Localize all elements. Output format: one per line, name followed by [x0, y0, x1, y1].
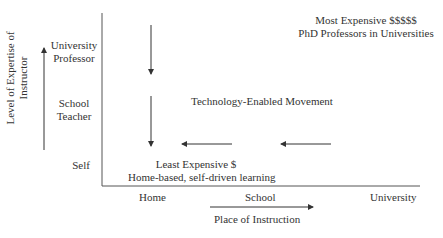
- x-level-home: Home: [139, 191, 166, 204]
- x-axis-title: Place of Instruction: [214, 213, 300, 226]
- least-expensive-label: Least Expensive $ Home-based, self-drive…: [128, 158, 264, 184]
- x-level-university: University: [370, 191, 416, 204]
- x-level-school: School: [245, 191, 276, 204]
- y-level-university-professor: University Professor: [46, 39, 102, 65]
- y-axis-title: Level of Expertise of Instructor: [4, 8, 30, 148]
- y-level-school-teacher: School Teacher: [46, 97, 102, 123]
- most-expensive-label: Most Expensive $$$$$ PhD Professors in U…: [296, 14, 436, 40]
- y-level-self: Self: [66, 159, 96, 172]
- movement-label: Technology-Enabled Movement: [191, 95, 333, 108]
